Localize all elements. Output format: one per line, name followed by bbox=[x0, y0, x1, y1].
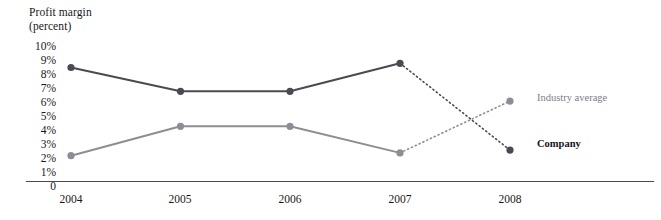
x-tick-label-2004: 2004 bbox=[60, 193, 83, 205]
data-point-marker bbox=[177, 88, 184, 95]
x-axis-line bbox=[26, 181, 654, 182]
x-tick-label-2005: 2005 bbox=[169, 193, 192, 205]
plot-area bbox=[0, 0, 661, 220]
series-line-solid bbox=[71, 63, 400, 91]
data-point-marker bbox=[506, 147, 513, 154]
series-line-projected bbox=[400, 63, 510, 150]
data-point-marker bbox=[286, 123, 293, 130]
data-point-marker bbox=[177, 123, 184, 130]
data-point-marker bbox=[67, 64, 74, 71]
series-svg bbox=[0, 0, 661, 220]
legend-item-company: Company bbox=[537, 138, 581, 150]
legend-item-industry-average: Industry average bbox=[537, 92, 607, 104]
profit-margin-line-chart: Profit margin(percent) 10% 9% 8% 7% 6% 5… bbox=[0, 0, 661, 220]
data-point-marker bbox=[67, 152, 74, 159]
x-tick-label-2007: 2007 bbox=[389, 193, 412, 205]
series-line-projected bbox=[400, 101, 510, 153]
data-point-marker bbox=[506, 98, 513, 105]
data-point-marker bbox=[286, 88, 293, 95]
data-point-marker bbox=[396, 60, 403, 67]
data-point-marker bbox=[396, 149, 403, 156]
series-line-solid bbox=[71, 126, 400, 155]
x-tick-label-2008: 2008 bbox=[499, 193, 522, 205]
x-tick-label-2006: 2006 bbox=[279, 193, 302, 205]
